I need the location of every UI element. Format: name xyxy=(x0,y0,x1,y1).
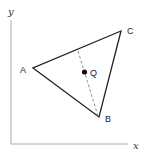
x-axis-label: x xyxy=(133,140,139,151)
label-q: Q xyxy=(90,68,97,78)
triangle-abc xyxy=(33,31,121,117)
label-b: B xyxy=(105,114,111,124)
label-c: C xyxy=(127,26,134,36)
label-a: A xyxy=(20,65,26,75)
y-axis-label: y xyxy=(7,6,14,17)
point-q xyxy=(82,69,87,74)
dashed-line-b xyxy=(78,51,98,116)
triangle-diagram: y x A B C Q xyxy=(0,0,145,158)
